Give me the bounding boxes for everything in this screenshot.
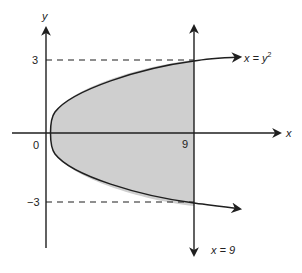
x-axis-label: x xyxy=(285,127,292,139)
tick-label-y-3: 3 xyxy=(32,54,38,66)
y-axis-label: y xyxy=(41,10,49,22)
parabola-label: x = y2 xyxy=(243,51,272,64)
parabola-label-exponent: 2 xyxy=(268,51,272,58)
region-diagram: y x 0 3 −3 9 x = y2 x = 9 xyxy=(0,0,302,273)
tick-label-x-9: 9 xyxy=(182,138,188,150)
parabola-label-text: x = y xyxy=(243,52,269,64)
tick-label-y-neg3: −3 xyxy=(27,196,40,208)
line-x-9-label: x = 9 xyxy=(210,244,235,256)
origin-label: 0 xyxy=(33,139,39,151)
